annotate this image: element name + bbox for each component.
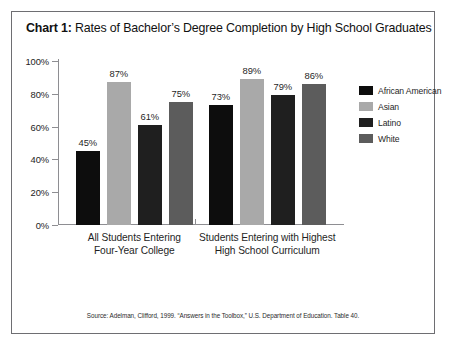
bar-value-label: 86% xyxy=(305,70,323,81)
plot-area: 0%20%40%60%80%100% 45%87%61%75%73%89%79%… xyxy=(58,61,342,225)
legend-item: Latino xyxy=(359,116,437,130)
bar-value-label: 61% xyxy=(141,111,159,122)
y-axis-tick-label: 100% xyxy=(25,56,49,67)
y-axis-tick-label-wrap: 0% xyxy=(58,225,59,226)
y-axis-tick-label: 40% xyxy=(31,154,49,165)
legend-swatch-icon xyxy=(359,134,373,143)
bar: 79% xyxy=(271,95,295,225)
legend-label: African American xyxy=(378,86,441,96)
bar: 73% xyxy=(209,105,233,225)
category-label-line: High School Curriculum xyxy=(199,245,335,258)
legend-swatch-icon xyxy=(359,102,373,111)
y-axis-tick-label: 60% xyxy=(31,121,49,132)
bar-value-label: 79% xyxy=(274,81,292,92)
chart-title-label: Chart 1: xyxy=(26,21,72,35)
bar-value-label: 73% xyxy=(212,91,230,102)
y-axis-tick-label-wrap: 40% xyxy=(58,159,59,160)
category-label-line: All Students Entering xyxy=(88,232,181,245)
y-axis-tick-label: 20% xyxy=(31,187,49,198)
category-label-line: Four-Year College xyxy=(88,245,181,258)
category-label: Students Entering with HighestHigh Schoo… xyxy=(199,232,335,257)
y-axis-tick-label-wrap: 60% xyxy=(58,127,59,128)
y-axis-line xyxy=(58,59,59,225)
y-axis-tick-label-wrap: 100% xyxy=(58,61,59,62)
bar-value-label: 75% xyxy=(172,88,190,99)
chart-title-text: Rates of Bachelor’s Degree Completion by… xyxy=(72,21,432,35)
chart-legend: African AmericanAsianLatinoWhite xyxy=(359,84,437,148)
legend-label: Latino xyxy=(378,118,401,128)
bar-value-label: 87% xyxy=(110,68,128,79)
legend-swatch-icon xyxy=(359,86,373,95)
bar: 87% xyxy=(107,82,131,225)
category-label: All Students EnteringFour-Year College xyxy=(88,232,181,257)
bar-value-label: 45% xyxy=(79,137,97,148)
bar: 45% xyxy=(76,151,100,225)
y-axis-tick-label-wrap: 80% xyxy=(58,94,59,95)
bar: 61% xyxy=(138,125,162,225)
bar-value-label: 89% xyxy=(243,65,261,76)
y-axis-tick-label: 0% xyxy=(36,220,49,231)
category-label-line: Students Entering with Highest xyxy=(199,232,335,245)
bar: 75% xyxy=(169,102,193,225)
legend-item: Asian xyxy=(359,100,437,114)
chart-card: Chart 1: Rates of Bachelor’s Degree Comp… xyxy=(11,11,435,334)
legend-swatch-icon xyxy=(359,118,373,127)
legend-item: White xyxy=(359,132,437,146)
legend-label: Asian xyxy=(378,102,399,112)
y-axis-tick-label: 80% xyxy=(31,88,49,99)
bar: 89% xyxy=(240,79,264,225)
group-separator-tick xyxy=(195,219,196,225)
y-axis-tick-label-wrap: 20% xyxy=(58,192,59,193)
chart-title: Chart 1: Rates of Bachelor’s Degree Comp… xyxy=(26,21,424,35)
source-note: Source: Adelman, Clifford, 1999. “Answer… xyxy=(12,312,434,319)
legend-label: White xyxy=(378,134,399,144)
bar: 86% xyxy=(302,84,326,225)
legend-item: African American xyxy=(359,84,437,98)
